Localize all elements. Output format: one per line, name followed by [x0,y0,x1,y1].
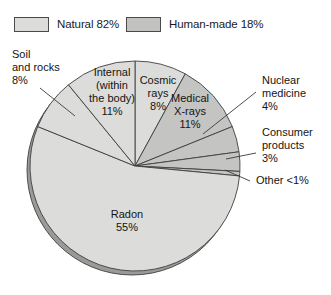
pie-chart-figure: Natural 82% Human-made 18% Cosmicrays8%M… [0,0,331,295]
slice-label-consumer-products: Consumerproducts3% [262,126,313,164]
pie-chart: Cosmicrays8%MedicalX-rays11%Nuclearmedic… [0,36,331,295]
legend-label-natural: Natural 82% [57,19,119,31]
natural-swatch [14,17,49,32]
legend-label-human-made: Human-made 18% [169,19,263,31]
legend-item-natural: Natural 82% [14,17,119,32]
slice-label-soil-and-rocks: Soiland rocks8% [12,48,60,86]
chart-legend: Natural 82% Human-made 18% [0,0,331,40]
slice-label-nuclear-medicine: Nuclearmedicine4% [262,74,306,112]
legend-item-human-made: Human-made 18% [126,17,263,32]
human-made-swatch [126,17,161,32]
slice-label-other: Other <1% [256,174,309,186]
